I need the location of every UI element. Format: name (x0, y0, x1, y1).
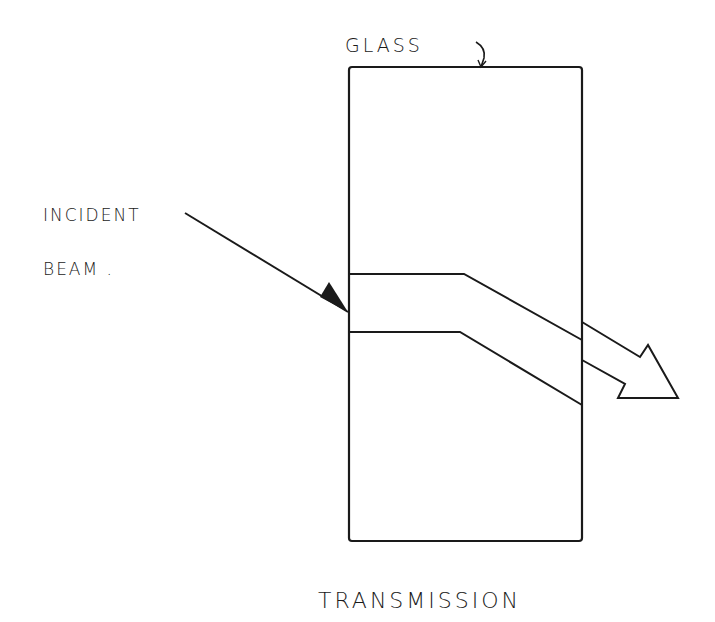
incident-beam-label: INCIDENT BEAM . (43, 170, 141, 314)
transmitted-arrow-icon (582, 322, 678, 398)
incident-label-line2: BEAM . (43, 260, 141, 278)
glass-label: GLASS (345, 36, 423, 55)
incident-label-line1: INCIDENT (43, 206, 141, 224)
incident-arrowhead-icon (320, 282, 348, 312)
refracted-band-lower-edge (350, 332, 582, 405)
diagram-title: TRANSMISSION (318, 590, 521, 612)
diagram-canvas: GLASS INCIDENT BEAM . TRANSMISSION (0, 0, 715, 622)
glass-pointer-icon (476, 42, 484, 67)
glass-slab (349, 67, 582, 541)
refracted-band-upper-edge (350, 274, 582, 340)
